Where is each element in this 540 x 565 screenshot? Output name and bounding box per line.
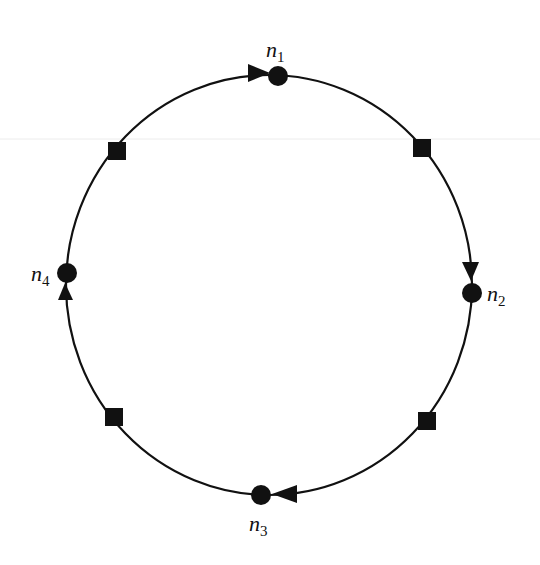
label-n1: n1 [266, 37, 285, 65]
cycle-nodes [57, 66, 482, 505]
node-n3 [251, 485, 271, 505]
intermediate-squares [105, 139, 436, 430]
cycle-diagram: n1n2n3n4 [0, 0, 540, 565]
s-lower-right-square [418, 412, 436, 430]
s-lower-left-square [105, 408, 123, 426]
s-upper-right-square [413, 139, 431, 157]
direction-arrows [58, 64, 479, 503]
arrow-into-n2-icon [462, 262, 479, 281]
node-labels: n1n2n3n4 [31, 37, 506, 539]
arrow-into-n4-icon [58, 283, 73, 300]
label-n3: n3 [249, 511, 268, 539]
node-n1 [268, 66, 288, 86]
s-upper-left-square [108, 142, 126, 160]
cycle-ring [66, 75, 472, 495]
node-n2 [462, 283, 482, 303]
node-n4 [57, 263, 77, 283]
label-n2: n2 [487, 281, 506, 309]
arrow-into-n3-icon [272, 485, 297, 503]
arrow-into-n1-icon [248, 64, 270, 82]
label-n4: n4 [31, 261, 50, 289]
